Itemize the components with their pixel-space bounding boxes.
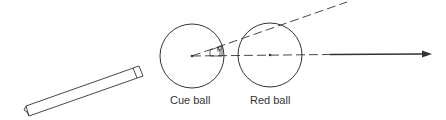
cue-stick [24, 66, 143, 116]
cue-ball-label: Cue ball [170, 94, 210, 106]
billiards-diagram [0, 0, 446, 120]
arrow-head-icon [422, 51, 432, 58]
velocity-arrow [330, 54, 422, 55]
angle-label: θ [217, 45, 222, 54]
red-ball-label: Red ball [250, 94, 290, 106]
